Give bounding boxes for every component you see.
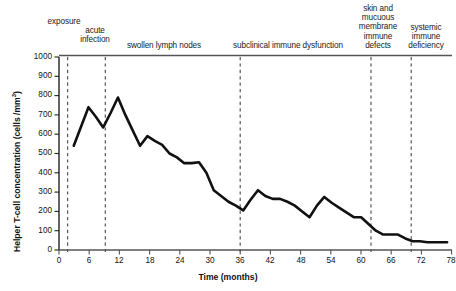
y-axis-title: Helper T-cell concentration (cells /mm3) bbox=[11, 91, 22, 252]
x-tick-label-60: 60 bbox=[351, 256, 371, 265]
stage-label-skin-mucuous-membrane-defects: skin and mucuous membrane immune defects bbox=[353, 4, 403, 50]
x-tick-label-18: 18 bbox=[140, 256, 160, 265]
x-tick-label-36: 36 bbox=[230, 256, 250, 265]
y-tick-label-0: 0 bbox=[20, 245, 52, 254]
x-tick-label-12: 12 bbox=[109, 256, 129, 265]
x-tick-label-48: 48 bbox=[291, 256, 311, 265]
y-tick-label-1000: 1000 bbox=[20, 52, 52, 61]
x-axis-title: Time (months) bbox=[0, 272, 456, 282]
x-tick-label-24: 24 bbox=[170, 256, 190, 265]
stage-label-systemic-immune-deficiency: systemic immune deficiency bbox=[400, 23, 452, 51]
y-tick-label-100: 100 bbox=[20, 226, 52, 235]
x-tick-label-72: 72 bbox=[411, 256, 431, 265]
y-tick-label-400: 400 bbox=[20, 168, 52, 177]
y-axis-title-suffix: ) bbox=[12, 91, 22, 94]
x-tick-label-30: 30 bbox=[200, 256, 220, 265]
y-tick-label-200: 200 bbox=[20, 206, 52, 215]
stage-label-exposure: exposure bbox=[33, 17, 95, 26]
x-tick-label-6: 6 bbox=[79, 256, 99, 265]
y-tick-label-900: 900 bbox=[20, 71, 52, 80]
chart-figure: exposure acute infection swollen lymph n… bbox=[0, 0, 456, 291]
y-axis-title-prefix: Helper T-cell concentration (cells /mm bbox=[12, 97, 22, 252]
y-tick-label-800: 800 bbox=[20, 90, 52, 99]
x-tick-label-0: 0 bbox=[49, 256, 69, 265]
stage-label-subclinical-immune-dysfunction: subclinical immune dysfunction bbox=[218, 41, 358, 50]
y-tick-label-300: 300 bbox=[20, 187, 52, 196]
x-tick-label-54: 54 bbox=[321, 256, 341, 265]
y-tick-label-500: 500 bbox=[20, 148, 52, 157]
y-tick-label-700: 700 bbox=[20, 110, 52, 119]
x-tick-label-66: 66 bbox=[381, 256, 401, 265]
x-tick-label-78: 78 bbox=[441, 256, 456, 265]
tcell-concentration-line bbox=[74, 98, 447, 243]
y-axis-title-exponent: 3 bbox=[11, 94, 17, 97]
y-tick-label-600: 600 bbox=[20, 129, 52, 138]
x-tick-label-42: 42 bbox=[260, 256, 280, 265]
stage-label-swollen-lymph-nodes: swollen lymph nodes bbox=[112, 41, 216, 50]
phase-divider-lines bbox=[68, 57, 456, 252]
